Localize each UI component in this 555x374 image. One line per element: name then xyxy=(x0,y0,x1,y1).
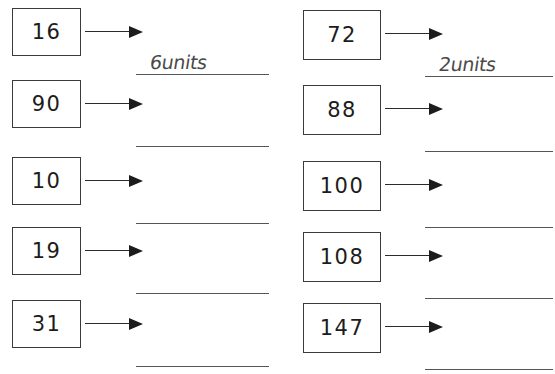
number-value: 108 xyxy=(320,247,365,268)
arrow-shaft xyxy=(85,323,131,324)
answer-blank[interactable] xyxy=(136,184,269,224)
number-value: 88 xyxy=(327,100,357,121)
problem-row: 90 xyxy=(0,79,285,153)
number-box: 16 xyxy=(12,8,81,56)
number-box: 90 xyxy=(12,80,81,128)
answer-rule xyxy=(136,366,269,367)
number-value: 100 xyxy=(320,176,365,197)
answer-blank[interactable] xyxy=(136,254,269,294)
answer-blank[interactable]: 2units xyxy=(425,37,553,77)
answer-rule xyxy=(136,74,269,75)
problem-row: 31 xyxy=(0,299,285,373)
number-value: 10 xyxy=(32,171,62,192)
arrow-shaft xyxy=(385,184,431,185)
arrow-shaft xyxy=(385,326,431,327)
arrow-shaft xyxy=(85,250,131,251)
answer-blank[interactable]: 6units xyxy=(136,35,269,75)
number-box: 88 xyxy=(303,85,381,135)
right-column: 72 2units 88 xyxy=(290,0,555,369)
answer-blank[interactable] xyxy=(425,330,553,370)
arrow-shaft xyxy=(85,31,131,32)
number-value: 19 xyxy=(32,241,62,262)
number-box: 19 xyxy=(12,227,81,275)
problem-row: 10 xyxy=(0,156,285,230)
number-value: 90 xyxy=(32,94,62,115)
answer-rule xyxy=(425,369,553,370)
answer-blank[interactable] xyxy=(425,188,553,228)
problem-row: 19 xyxy=(0,226,285,300)
arrow-shaft xyxy=(385,108,431,109)
answer-rule xyxy=(425,227,553,228)
left-column: 16 6units 90 xyxy=(0,0,285,369)
number-box: 100 xyxy=(303,161,381,211)
answer-rule xyxy=(136,146,269,147)
answer-blank[interactable] xyxy=(425,112,553,152)
number-value: 31 xyxy=(32,314,62,335)
answer-blank[interactable] xyxy=(136,107,269,147)
number-box: 10 xyxy=(12,157,81,205)
handwritten-answer: 6units xyxy=(148,51,208,73)
arrow-shaft xyxy=(385,255,431,256)
number-box: 31 xyxy=(12,300,81,348)
number-value: 16 xyxy=(32,22,62,43)
number-box: 108 xyxy=(303,232,381,282)
answer-blank[interactable] xyxy=(425,259,553,299)
number-box: 72 xyxy=(303,10,381,60)
answer-rule xyxy=(425,76,553,77)
answer-rule xyxy=(425,151,553,152)
number-value: 147 xyxy=(320,318,365,339)
problem-row: 72 2units xyxy=(290,9,555,83)
handwritten-answer: 2units xyxy=(437,53,497,75)
problem-row: 100 xyxy=(290,160,555,234)
number-box: 147 xyxy=(303,303,381,353)
arrow-shaft xyxy=(385,33,431,34)
arrow-shaft xyxy=(85,180,131,181)
answer-rule xyxy=(136,293,269,294)
answer-rule xyxy=(425,298,553,299)
problem-row: 88 xyxy=(290,84,555,158)
arrow-shaft xyxy=(85,103,131,104)
answer-rule xyxy=(136,223,269,224)
number-value: 72 xyxy=(327,25,357,46)
problem-row: 16 6units xyxy=(0,7,285,81)
problem-row: 108 xyxy=(290,231,555,305)
answer-blank[interactable] xyxy=(136,327,269,367)
problem-row: 147 xyxy=(290,302,555,374)
